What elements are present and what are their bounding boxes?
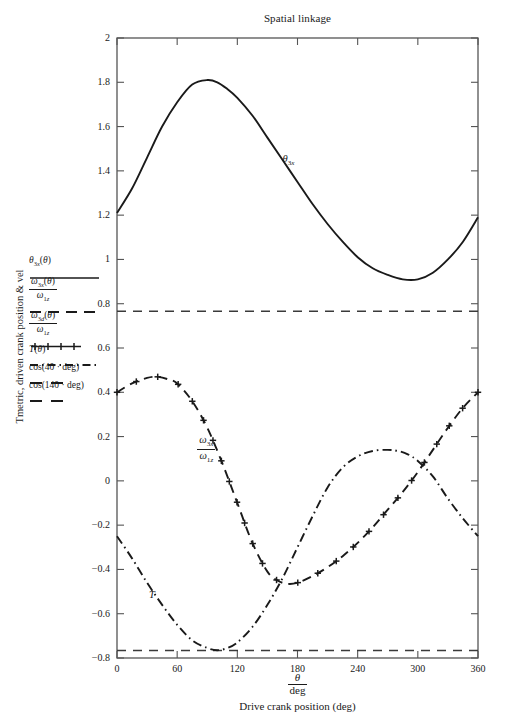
y-tick-label: −0.8 [76, 653, 110, 663]
x-tick-label: 360 [458, 664, 498, 674]
data-series [114, 80, 481, 650]
y-tick-label: 1.4 [76, 166, 110, 176]
x-tick-label: 240 [338, 664, 378, 674]
series-T [117, 450, 478, 650]
reference-lines [117, 311, 478, 650]
omega-ratio-curve-label: ω3x ω1z [197, 434, 215, 465]
y-tick-label: 1.2 [76, 210, 110, 220]
y-tick-label: 0.4 [76, 387, 110, 397]
series-omega_3x_over_omega_1z [117, 377, 478, 584]
series-omega_3d_over_omega_1z [114, 374, 481, 586]
y-tick-label: 0.6 [76, 343, 110, 353]
y-tick-label: 2 [76, 33, 110, 43]
y-tick-label: −0.4 [76, 564, 110, 574]
series-theta_3x [117, 80, 478, 280]
y-tick-label: 1.6 [76, 122, 110, 132]
y-tick-label: −0.6 [76, 609, 110, 619]
y-tick-label: 0.2 [76, 432, 110, 442]
x-tick-label: 120 [217, 664, 257, 674]
x-tick-label: 180 [278, 664, 318, 674]
x-tick-label: 300 [398, 664, 438, 674]
y-tick-label: 1 [76, 254, 110, 264]
y-tick-label: 0 [76, 476, 110, 486]
axes [117, 38, 478, 658]
T-curve-label: T [149, 589, 155, 600]
x-tick-label: 60 [157, 664, 197, 674]
x-tick-label: 0 [97, 664, 137, 674]
chart-figure: Spatial linkage Tmetric, driven crank po… [0, 0, 507, 725]
theta-3x-curve-label: θ3x [282, 153, 294, 167]
y-tick-label: −0.2 [76, 520, 110, 530]
y-tick-label: 0.8 [76, 299, 110, 309]
y-tick-label: 1.8 [76, 77, 110, 87]
